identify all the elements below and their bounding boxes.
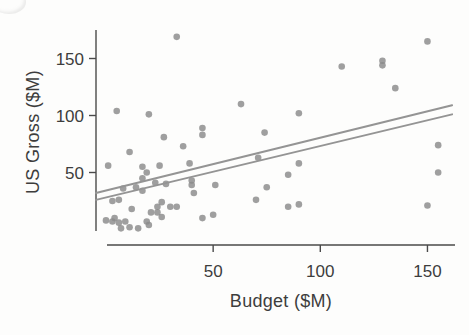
x-tick-label: 50: [204, 262, 223, 281]
data-point: [435, 142, 442, 149]
data-point: [392, 85, 399, 92]
data-point: [191, 190, 198, 197]
data-point: [126, 149, 133, 156]
data-point: [199, 215, 206, 222]
regression-line-upper: [96, 105, 452, 193]
data-point: [167, 203, 174, 210]
data-point: [103, 217, 110, 224]
data-point: [139, 164, 146, 171]
y-tick-label: 50: [65, 164, 84, 183]
data-point: [379, 62, 386, 69]
data-point: [122, 218, 129, 225]
data-point: [173, 203, 180, 210]
data-point: [135, 225, 142, 232]
data-point: [296, 201, 303, 208]
data-point: [154, 209, 161, 216]
scatter-chart: 5010015050100150: [0, 0, 469, 335]
x-axis-title: Budget ($M): [230, 291, 332, 312]
data-point: [186, 160, 193, 167]
data-point: [173, 34, 180, 41]
regression-line-lower: [96, 114, 452, 200]
data-point: [156, 162, 163, 169]
data-point: [263, 184, 270, 191]
data-point: [111, 215, 118, 222]
data-point: [424, 202, 431, 209]
data-point: [261, 129, 268, 136]
data-point: [118, 225, 125, 232]
x-tick-label: 150: [413, 262, 441, 281]
data-point: [148, 209, 155, 216]
data-point: [188, 182, 195, 189]
data-point: [253, 197, 260, 204]
data-point: [210, 211, 217, 218]
data-point: [128, 206, 135, 213]
data-point: [146, 111, 153, 118]
scatter-plot-figure: 5010015050100150 Budget ($M) US Gross ($…: [0, 0, 469, 335]
data-point: [146, 222, 153, 229]
data-point: [158, 199, 165, 206]
data-point: [161, 134, 168, 141]
y-axis-title: US Gross ($M): [23, 70, 44, 194]
y-tick-label: 150: [56, 50, 84, 69]
data-point: [435, 169, 442, 176]
data-point: [126, 224, 133, 231]
data-point: [238, 101, 245, 108]
data-point: [109, 198, 116, 205]
data-point: [296, 110, 303, 117]
data-point: [285, 203, 292, 210]
data-point: [180, 143, 187, 150]
data-point: [113, 108, 120, 115]
data-point: [212, 182, 219, 189]
y-tick-label: 100: [56, 107, 84, 126]
data-point: [199, 125, 206, 132]
x-tick-label: 100: [306, 262, 334, 281]
data-point: [116, 197, 123, 204]
data-point: [424, 38, 431, 45]
data-point: [143, 169, 150, 176]
data-point: [285, 171, 292, 178]
data-point: [105, 162, 112, 169]
data-point: [338, 63, 345, 70]
data-point: [199, 132, 206, 139]
data-point: [296, 160, 303, 167]
